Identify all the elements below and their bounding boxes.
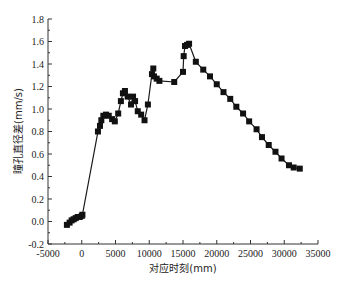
y-tick-label: 0.6 [32,149,45,160]
x-tick-label: 30000 [272,248,297,259]
y-tick-label: 1.2 [32,81,45,92]
data-point-marker [132,98,138,104]
y-tick-label: 0.2 [32,194,45,205]
data-point-marker [171,79,177,85]
x-tick-label: 20000 [204,248,229,259]
data-point-marker [156,78,162,84]
x-tick-label: 0 [79,248,84,259]
data-point-marker [246,118,252,124]
data-point-marker [142,117,148,123]
data-point-marker [181,53,187,59]
data-point-marker [79,212,85,218]
x-tick-label: 15000 [171,248,196,259]
y-tick-label: 0.4 [32,171,45,182]
data-point-marker [115,111,121,117]
data-point-marker [118,98,124,104]
data-point-marker [200,67,206,73]
y-tick-label: 0.8 [32,126,45,137]
line-chart: -0.20.00.20.40.60.81.01.21.41.61.8-50000… [0,0,344,289]
y-tick-label: 0.0 [32,216,45,227]
x-tick-label: 25000 [238,248,263,259]
data-point-marker [240,111,246,117]
data-point-marker [221,89,227,95]
data-point-marker [297,166,303,172]
data-point-marker [193,59,199,65]
data-point-marker [214,81,220,87]
data-point-marker [233,104,239,110]
y-tick-label: 1.6 [32,36,45,47]
data-point-marker [266,142,272,148]
data-point-marker [291,165,297,171]
data-point-marker [145,102,151,108]
y-tick-label: 1.8 [32,14,45,25]
y-tick-label: 1.0 [32,104,45,115]
data-point-marker [97,123,103,129]
data-point-marker [207,73,213,79]
data-series [64,41,303,228]
y-tick-label: 1.4 [32,59,45,70]
data-point-marker [186,41,192,47]
data-point-marker [272,149,278,155]
x-tick-label: 5000 [106,248,126,259]
data-point-marker [112,118,118,124]
data-point-marker [279,156,285,162]
data-point-marker [138,112,144,118]
x-tick-label: -5000 [36,248,59,259]
data-point-marker [122,88,128,94]
data-point-marker [227,96,233,102]
x-tick-label: 35000 [306,248,331,259]
data-point-marker [95,129,101,135]
y-axis-label: 瞳孔直径差(mm/s) [12,88,24,174]
data-point-marker [254,126,260,132]
data-point-marker [125,94,131,100]
x-axis-label: 对应时刻(mm) [149,262,216,274]
data-point-marker [150,66,156,72]
x-tick-label: 10000 [137,248,162,259]
data-point-marker [259,134,265,140]
data-point-marker [180,69,186,75]
